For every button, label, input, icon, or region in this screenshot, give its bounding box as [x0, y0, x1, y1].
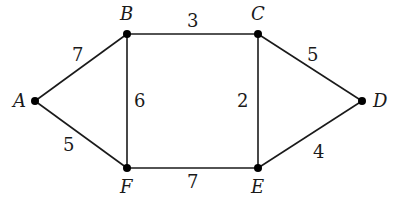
node-c: [254, 30, 262, 38]
node-label-e: E: [250, 176, 264, 197]
node-label-a: A: [11, 90, 26, 111]
node-label-f: F: [119, 176, 134, 197]
node-d: [358, 97, 366, 105]
edge-weight-b-c: 3: [187, 10, 198, 31]
weighted-graph: 73562574 ABCDEF: [0, 0, 398, 199]
edges: 73562574: [35, 10, 362, 192]
node-label-b: B: [119, 3, 133, 24]
node-a: [31, 97, 39, 105]
edge-weight-a-b: 7: [72, 44, 83, 65]
edge-weight-b-f: 6: [134, 90, 145, 111]
edge-weight-f-e: 7: [187, 171, 198, 192]
edge-weight-e-d: 4: [313, 141, 324, 162]
node-b: [123, 30, 131, 38]
edge-weight-a-f: 5: [63, 134, 74, 155]
node-e: [254, 164, 262, 172]
edge-e-d: [258, 101, 362, 168]
edge-weight-c-e: 2: [237, 90, 248, 111]
node-label-c: C: [251, 3, 265, 24]
edge-a-f: [35, 101, 127, 168]
edge-weight-c-d: 5: [307, 44, 318, 65]
node-label-d: D: [372, 90, 388, 111]
node-f: [123, 164, 131, 172]
